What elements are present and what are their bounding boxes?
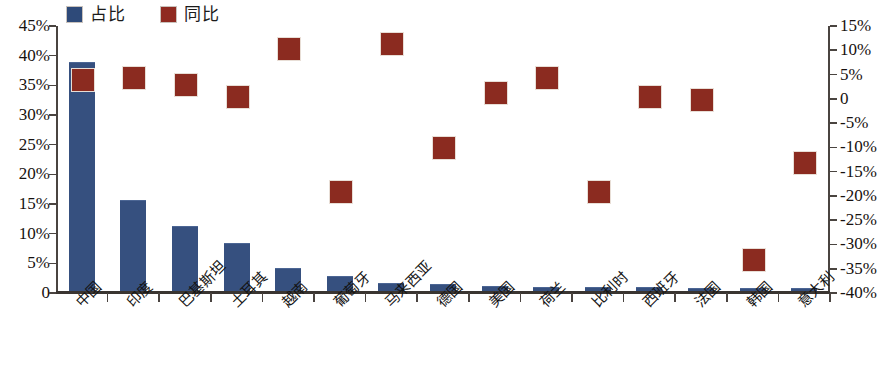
right-axis-tick-label: 15% [840,17,871,34]
right-axis-tick-label: -35% [840,260,877,277]
marker-7 [380,32,404,56]
left-axis-tick [49,263,56,265]
marker-9 [484,81,508,105]
left-axis-tick-label: 35% [0,76,50,93]
marker-1 [71,68,95,92]
left-axis-tick-label: 20% [0,165,50,182]
data-layer [56,26,830,293]
left-axis-tick-label: 0 [0,284,50,301]
right-axis-tick [830,268,837,270]
right-axis-tick-label: -5% [840,114,868,131]
right-axis-labels: 15%10%5%0-5%-10%-15%-20%-25%-30%-35%-40% [840,26,883,293]
bar-1 [69,62,95,291]
right-axis-tick-label: -15% [840,163,877,180]
plot-area [56,26,830,293]
right-axis-tick [830,147,837,149]
marker-13 [690,88,714,112]
right-axis-tick-label: 10% [840,41,871,58]
right-axis-tick [830,49,837,51]
left-axis-tick-label: 15% [0,195,50,212]
right-axis-tick-label: -25% [840,211,877,228]
marker-6 [329,180,353,204]
marker-12 [638,85,662,109]
left-axis-tick-label: 25% [0,136,50,153]
legend-swatch-blue-icon [66,6,83,23]
left-axis-tick [49,55,56,57]
right-axis-tick [830,74,837,76]
right-axis-tick [830,244,837,246]
left-axis-labels: 45%40%35%30%25%20%15%10%5%0 [0,26,50,293]
marker-11 [587,180,611,204]
right-axis-tick [830,219,837,221]
marker-8 [432,136,456,160]
x-axis-labels: 中国印度巴基斯坦土耳其越南葡萄牙马来西亚德国美国荷兰比利时西班牙法国韩国意大利 [56,296,830,371]
right-axis-tick-label: -30% [840,235,877,252]
left-axis-tick [49,174,56,176]
left-axis-tick-label: 45% [0,17,50,34]
marker-4 [226,85,250,109]
right-axis-tick-label: 0 [840,90,849,107]
right-axis-tick-label: -40% [840,284,877,301]
legend-label-share: 占比 [90,6,126,23]
left-axis-tick [49,292,56,294]
legend-label-yoy: 同比 [184,6,220,23]
left-axis-tick [49,144,56,146]
right-axis-tick [830,195,837,197]
left-axis-tick-label: 5% [0,254,50,271]
legend-item-yoy: 同比 [160,6,220,23]
right-axis-tick [830,122,837,124]
marker-3 [174,73,198,97]
left-axis-tick [49,85,56,87]
left-axis-tick-label: 30% [0,106,50,123]
chart-figure: 占比 同比 45%40%35%30%25%20%15%10%5%0 15%10%… [0,0,883,371]
right-axis-tick-label: -20% [840,187,877,204]
marker-15 [793,151,817,175]
right-axis-tick-label: 5% [840,66,863,83]
left-axis-tick-label: 10% [0,225,50,242]
right-axis-tick [830,171,837,173]
left-axis-tick [49,203,56,205]
legend-swatch-red-icon [160,6,177,23]
marker-2 [122,66,146,90]
right-axis-tick [830,98,837,100]
right-axis-tick-label: -10% [840,138,877,155]
marker-5 [277,37,301,61]
chart-legend: 占比 同比 [66,3,220,25]
left-axis-tick [49,25,56,27]
right-axis-tick [830,292,837,294]
marker-10 [535,66,559,90]
left-axis-tick [49,233,56,235]
marker-14 [742,248,766,272]
left-axis-tick-label: 40% [0,47,50,64]
legend-item-share: 占比 [66,6,126,23]
right-axis-tick [830,25,837,27]
left-axis-tick [49,114,56,116]
